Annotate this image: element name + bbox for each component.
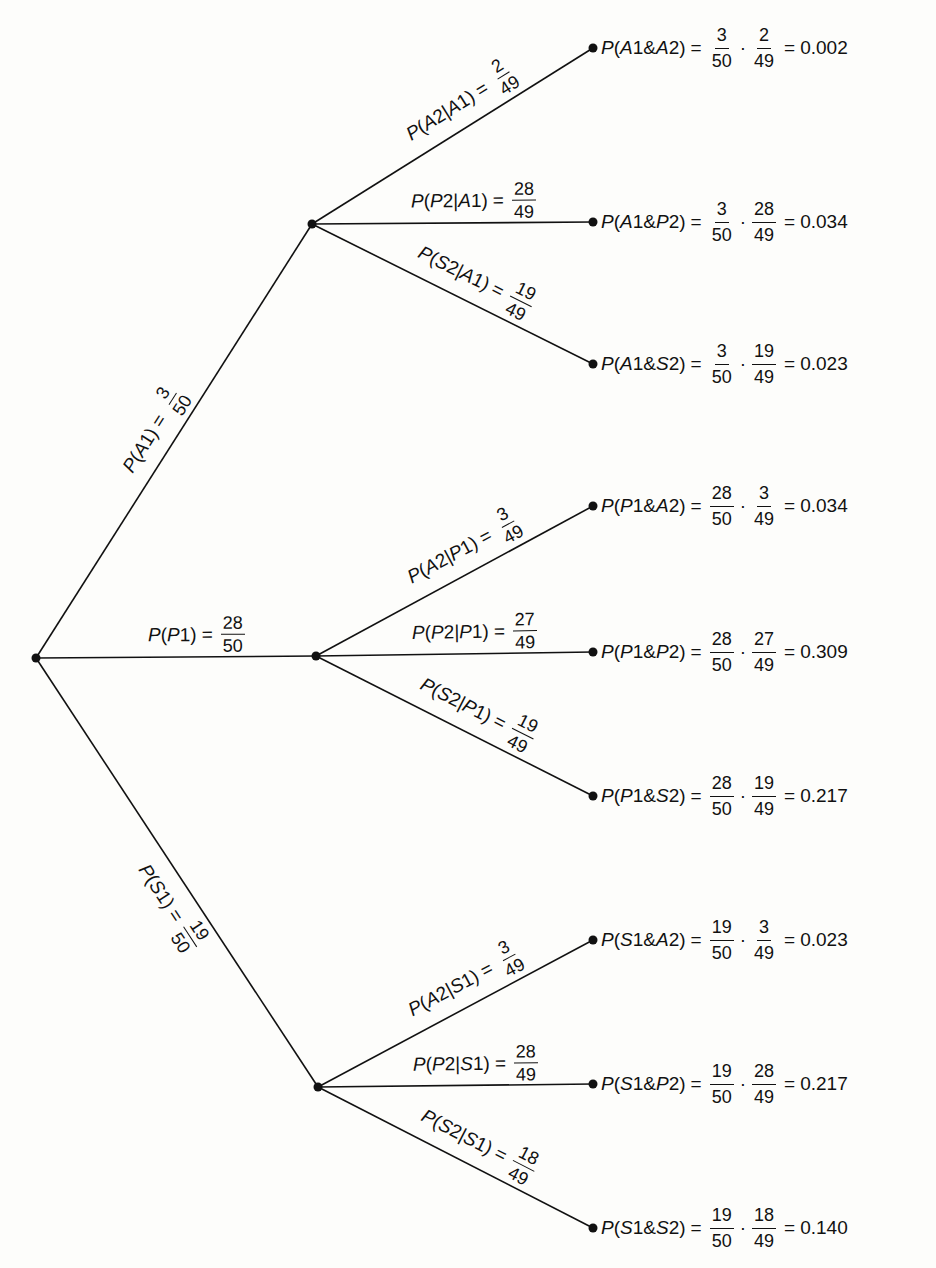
fraction: 2849 — [514, 1042, 538, 1083]
equals: = — [784, 641, 795, 663]
equals: = — [691, 929, 702, 951]
equals: = — [472, 78, 492, 100]
ampersand: & — [643, 211, 656, 233]
paren: ) — [679, 495, 685, 517]
ampersand: & — [643, 929, 656, 951]
equals: = — [691, 353, 702, 375]
fraction-denominator: 49 — [752, 507, 776, 530]
joint-probability-s1-p2: P(S1 & P2)=1950·2849=0.217 — [601, 1061, 848, 1108]
ampersand: & — [643, 1073, 656, 1095]
event-letter: P — [432, 1054, 445, 1073]
leaf-node-p1-s2 — [589, 792, 598, 801]
joint-probability-p1-p2: P(P1 & P2)=2850·2749=0.309 — [601, 629, 848, 676]
event-letter: P — [431, 623, 444, 642]
paren: ( — [423, 192, 429, 211]
ampersand: & — [643, 785, 656, 807]
event-letter: S — [656, 353, 669, 375]
event-index: 2 — [669, 1073, 680, 1095]
fraction: 2849 — [752, 1061, 776, 1108]
joint-result: 0.217 — [800, 785, 848, 807]
event-letter: S — [656, 785, 669, 807]
event-index: 2 — [669, 641, 680, 663]
equals: = — [477, 959, 496, 981]
event-letter: S — [656, 1217, 669, 1239]
event-letter: A — [620, 211, 633, 233]
joint-probability-a1-p2: P(A1 & P2)=350·2849=0.034 — [601, 199, 848, 246]
fraction-denominator: 49 — [752, 653, 776, 676]
multiply-dot: · — [740, 37, 746, 59]
fraction-denominator: 49 — [752, 365, 776, 388]
joint-probability-a1-s2: P(A1 & S2)=350·1949=0.023 — [601, 341, 848, 388]
event-letter: A — [620, 37, 633, 59]
ampersand: & — [643, 1217, 656, 1239]
paren: ) — [679, 1073, 685, 1095]
fraction: 2749 — [752, 629, 776, 676]
fraction-denominator: 50 — [710, 941, 734, 964]
event-letter: P — [430, 192, 443, 211]
node-s1 — [314, 1083, 323, 1092]
leaf-node-s1-s2 — [589, 1224, 598, 1233]
leaf-node-a1-p2 — [589, 218, 598, 227]
ampersand: & — [643, 641, 656, 663]
fraction-denominator: 49 — [752, 1229, 776, 1252]
fraction: 2850 — [710, 483, 734, 530]
event-index: 2 — [669, 495, 680, 517]
event-letter: S — [620, 1217, 633, 1239]
fraction: 1950 — [710, 917, 734, 964]
fraction-numerator: 3 — [715, 199, 729, 223]
leaf-node-a1-s2 — [589, 360, 598, 369]
event-index: 1 — [473, 1054, 484, 1073]
multiply-dot: · — [740, 1073, 746, 1095]
branch-label-p1: P(P1)=2850 — [148, 614, 248, 656]
event-index: 1 — [471, 191, 482, 210]
event-index: 1 — [633, 353, 644, 375]
equals: = — [784, 37, 795, 59]
branch-p1-p2 — [316, 652, 593, 656]
event-index: 1 — [633, 1217, 644, 1239]
equals: = — [691, 641, 702, 663]
event-letter: P — [656, 211, 669, 233]
branch-a1-p2 — [312, 222, 593, 224]
paren: ) — [484, 1054, 491, 1073]
fraction: 349 — [752, 917, 776, 964]
event-index: 2 — [669, 211, 680, 233]
fraction-numerator: 19 — [710, 917, 734, 941]
fraction-numerator: 28 — [710, 629, 734, 653]
event-letter: P — [656, 641, 669, 663]
branch-label-p2-given-p1: P(P2 | P1)=2749 — [412, 610, 541, 653]
equals: = — [784, 785, 795, 807]
prob-symbol: P — [411, 192, 424, 211]
fraction-denominator: 49 — [752, 941, 776, 964]
event-letter: S — [620, 929, 633, 951]
equals: = — [165, 905, 187, 925]
fraction-denominator: 50 — [710, 365, 734, 388]
event-index: 2 — [444, 622, 455, 641]
fraction-denominator: 50 — [710, 49, 734, 72]
event-letter: A — [620, 353, 633, 375]
fraction-numerator: 3 — [757, 917, 771, 941]
leaf-node-s1-a2 — [589, 936, 598, 945]
fraction-numerator: 19 — [752, 773, 776, 797]
event-letter: S — [460, 1054, 473, 1073]
multiply-dot: · — [740, 929, 746, 951]
paren: ) — [679, 211, 685, 233]
paren: ) — [679, 1217, 685, 1239]
prob-symbol: P — [601, 785, 614, 807]
branch-s1 — [36, 658, 318, 1087]
leaf-node-a1-a2 — [589, 44, 598, 53]
event-index: 2 — [669, 37, 680, 59]
fraction-denominator: 50 — [710, 1085, 734, 1108]
root-node — [32, 654, 41, 663]
fraction-denominator: 49 — [512, 201, 536, 221]
joint-result: 0.034 — [800, 495, 848, 517]
joint-probability-s1-a2: P(S1 & A2)=1950·349=0.023 — [601, 917, 848, 964]
paren: ) — [481, 191, 487, 210]
event-letter: P — [167, 625, 180, 644]
event-index: 1 — [472, 622, 483, 641]
joint-probability-s1-s2: P(S1 & S2)=1950·1849=0.140 — [601, 1205, 848, 1252]
multiply-dot: · — [740, 785, 746, 807]
prob-symbol: P — [601, 929, 614, 951]
joint-result: 0.002 — [800, 37, 848, 59]
fraction: 2849 — [752, 199, 776, 246]
joint-probability-a1-a2: P(A1 & A2)=350·249=0.002 — [601, 25, 848, 72]
